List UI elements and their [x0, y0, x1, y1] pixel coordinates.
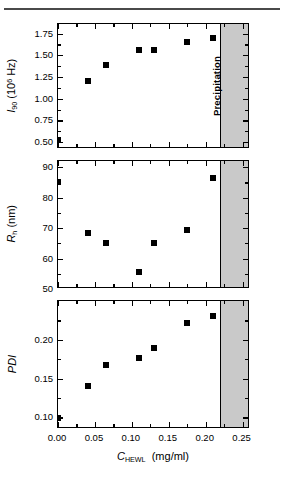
plot-area-pdi	[58, 301, 248, 427]
x-tick-mark	[76, 301, 77, 304]
y-tick-mark	[243, 417, 248, 418]
data-point	[85, 78, 91, 84]
x-tick-mark	[76, 284, 77, 287]
x-tick-mark	[243, 282, 244, 287]
y-tick-mark	[58, 110, 61, 111]
x-tick-mark	[58, 24, 59, 29]
data-point	[184, 320, 190, 326]
x-tick-mark	[132, 24, 133, 29]
x-tick-mark	[169, 301, 170, 306]
y-tick-label: 90	[42, 161, 53, 172]
x-tick-mark	[113, 24, 114, 27]
x-tick-mark	[243, 301, 244, 306]
y-axis-title-rh: Rh (nm)	[0, 160, 24, 288]
x-tick-mark	[150, 424, 151, 427]
precipitation-region: Precipitation	[220, 24, 248, 147]
y-tick-mark	[58, 228, 63, 229]
y-tick-mark	[58, 44, 61, 45]
y-tick-mark	[243, 167, 248, 168]
x-axis-title: CHEWL (mg/ml)	[57, 450, 249, 464]
data-point	[85, 230, 91, 236]
x-tick-mark	[58, 161, 59, 166]
data-point	[210, 35, 216, 41]
x-tick-mark	[132, 282, 133, 287]
x-tick-mark	[243, 161, 244, 166]
figure-container: Precipitation 0.500.751.001.251.501.75 I…	[0, 0, 284, 479]
x-tick-mark	[95, 301, 96, 306]
x-tick-mark	[132, 301, 133, 306]
y-tick-mark	[58, 320, 61, 321]
x-tick-mark	[169, 282, 170, 287]
y-tick-mark	[58, 243, 61, 244]
y-tick-mark	[245, 182, 248, 183]
x-tick-mark	[224, 284, 225, 287]
x-tick-mark	[58, 282, 59, 287]
y-tick-mark	[58, 340, 63, 341]
y-tick-mark	[58, 398, 61, 399]
data-point	[151, 345, 157, 351]
y-tick-mark	[245, 44, 248, 45]
x-tick-mark	[76, 24, 77, 27]
y-tick-label: 0.20	[35, 333, 54, 344]
x-tick-label: 0.15	[159, 432, 178, 443]
y-tick-mark	[245, 66, 248, 67]
x-tick-mark	[150, 24, 151, 27]
panel-pdi	[57, 300, 249, 428]
y-tick-label: 0.15	[35, 372, 54, 383]
x-tick-mark	[95, 282, 96, 287]
x-tick-mark	[113, 161, 114, 164]
precipitation-region	[220, 301, 248, 427]
x-tick-mark	[206, 282, 207, 287]
y-tick-label: 70	[42, 222, 53, 233]
y-tick-mark	[58, 359, 61, 360]
y-tick-mark	[58, 66, 61, 67]
x-tick-mark	[243, 142, 244, 147]
y-tick-mark	[58, 131, 61, 132]
x-tick-mark	[76, 144, 77, 147]
x-tick-mark	[206, 24, 207, 29]
data-point	[210, 175, 216, 181]
x-tick-mark	[150, 161, 151, 164]
y-tick-mark	[243, 198, 248, 199]
data-point	[103, 240, 109, 246]
x-tick-mark	[95, 142, 96, 147]
y-tick-mark	[58, 379, 63, 380]
y-tick-label: 1.75	[35, 27, 54, 38]
data-point	[151, 240, 157, 246]
y-tick-mark	[58, 213, 61, 214]
y-tick-mark	[245, 359, 248, 360]
plot-area-rh	[58, 161, 248, 287]
y-tick-mark	[243, 340, 248, 341]
y-tick-mark	[245, 398, 248, 399]
x-tick-mark	[95, 24, 96, 29]
y-tick-label: 50	[42, 283, 53, 294]
precipitation-region	[220, 161, 248, 287]
y-tick-mark	[58, 120, 63, 121]
plot-area-i90: Precipitation	[58, 24, 248, 147]
x-tick-mark	[113, 284, 114, 287]
data-point	[136, 355, 142, 361]
x-tick-mark	[206, 422, 207, 427]
y-tick-mark	[58, 77, 63, 78]
y-tick-mark	[243, 228, 248, 229]
data-point	[210, 313, 216, 319]
y-tick-mark	[243, 34, 248, 35]
page-top-rule	[4, 8, 280, 10]
y-axis-title-pdi: PDI	[0, 300, 24, 428]
x-tick-mark	[224, 424, 225, 427]
x-tick-mark	[206, 161, 207, 166]
data-point	[103, 362, 109, 368]
x-tick-mark	[113, 301, 114, 304]
x-tick-label: 0.10	[122, 432, 141, 443]
y-tick-mark	[243, 55, 248, 56]
y-tick-mark	[243, 77, 248, 78]
x-tick-mark	[95, 422, 96, 427]
y-tick-mark	[58, 99, 63, 100]
x-tick-mark	[169, 142, 170, 147]
data-point	[184, 39, 190, 45]
y-tick-mark	[243, 99, 248, 100]
x-tick-mark	[169, 24, 170, 29]
data-point	[136, 47, 142, 53]
x-tick-mark	[187, 24, 188, 27]
data-point	[103, 62, 109, 68]
